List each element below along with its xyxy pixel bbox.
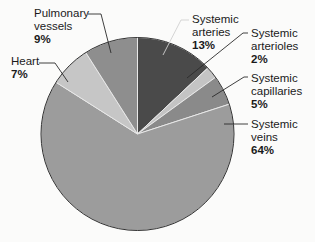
label-pulmonary-vessels: Pulmonary vessels 9% — [34, 7, 89, 46]
label-systemic-arteries: Systemic arteries 13% — [192, 13, 239, 52]
label-systemic-capillaries: Systemic capillaries 5% — [251, 72, 302, 111]
label-systemic-veins: Systemic veins 64% — [251, 118, 298, 157]
label-heart: Heart 7% — [11, 55, 39, 81]
label-systemic-arterioles: Systemic arterioles 2% — [251, 27, 298, 66]
